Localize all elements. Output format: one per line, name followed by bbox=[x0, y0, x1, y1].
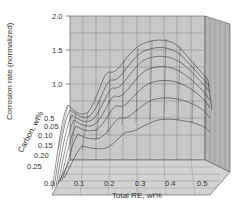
side-wall bbox=[205, 16, 230, 172]
y-tick-2: 0.10 bbox=[38, 131, 53, 140]
z-axis-label: Corrosion rate (normalized) bbox=[5, 23, 14, 120]
z-tick-1-0: 1.0 bbox=[52, 80, 62, 89]
x-axis-label: Total RE, wt% bbox=[112, 191, 162, 200]
surface-chart: 2.0 1.5 1.0 Corrosion rate (normalized) … bbox=[0, 0, 236, 203]
floor bbox=[52, 160, 230, 195]
chart-plot-area bbox=[0, 0, 236, 203]
y-tick-5: 0.25 bbox=[27, 162, 42, 171]
z-tick-1-5: 1.5 bbox=[52, 46, 62, 55]
x-tick-0: 0.0 bbox=[44, 179, 54, 188]
x-tick-5: 0.5 bbox=[197, 179, 207, 188]
y-tick-4: 0.20 bbox=[34, 151, 49, 160]
x-tick-1: 0.1 bbox=[74, 179, 84, 188]
y-tick-3: 0.15 bbox=[38, 141, 53, 150]
x-tick-2: 0.2 bbox=[104, 179, 114, 188]
back-wall bbox=[70, 16, 205, 160]
x-tick-3: 0.3 bbox=[135, 179, 145, 188]
x-tick-4: 0.4 bbox=[165, 179, 175, 188]
y-tick-1: 0.05 bbox=[44, 122, 59, 131]
z-tick-2-0: 2.0 bbox=[52, 12, 62, 21]
